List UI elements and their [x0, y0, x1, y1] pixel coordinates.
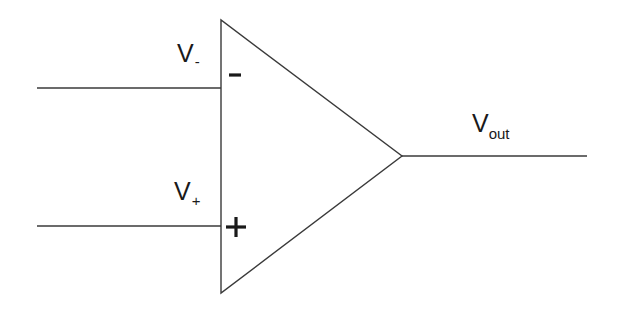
label-subscript: - — [195, 53, 200, 70]
label-subscript: out — [489, 125, 510, 142]
label-main: V — [177, 39, 194, 67]
non-inverting-input-label: V+ — [174, 179, 199, 204]
opamp-diagram — [0, 0, 620, 311]
output-label: Vout — [472, 111, 510, 136]
label-main: V — [472, 109, 489, 137]
opamp-triangle — [221, 20, 402, 293]
inverting-input-label: V- — [177, 41, 199, 66]
label-subscript: + — [192, 192, 201, 209]
label-main: V — [174, 177, 191, 205]
